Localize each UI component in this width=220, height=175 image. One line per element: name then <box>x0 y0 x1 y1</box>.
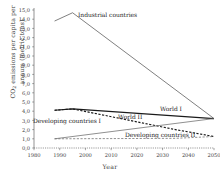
series-line-industrial-countries <box>55 13 214 119</box>
x-axis-tick-marks <box>34 148 214 150</box>
data-series-group <box>55 13 214 139</box>
series-line-developing-countries-ii <box>55 137 214 139</box>
axes <box>34 8 214 148</box>
series-line-developing-countries-i <box>55 119 214 139</box>
co2-emissions-line-chart: CO2 emissions per capita per annum (metr… <box>0 0 220 175</box>
plot-area <box>0 0 220 175</box>
